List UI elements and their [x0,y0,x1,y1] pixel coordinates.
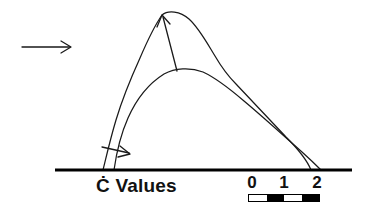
outer-skewed-curve [103,12,311,170]
scale-bar-numbers: 0 1 2 [248,174,320,194]
flow-direction-arrow [22,41,71,53]
scale-bar-segment [284,195,302,201]
scale-bar-label-1: 1 [279,174,288,191]
scale-bar-segment [249,195,267,201]
axis-label-c-values: Ċ Values [96,176,177,195]
scale-bar: 0 1 2 [248,174,320,202]
scale-bar-segments [248,194,320,202]
scale-bar-label-0: 0 [247,174,256,191]
inner-dome-curve [114,69,321,170]
figure-root: Ċ Values 0 1 2 [0,0,371,211]
scale-bar-segment [302,195,320,201]
scale-bar-segment [267,195,285,201]
vertical-growth-arrow [157,15,177,71]
scale-bar-label-2: 2 [312,174,321,191]
